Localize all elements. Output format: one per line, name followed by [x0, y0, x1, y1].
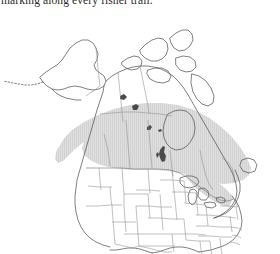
- north-america-range-map: [0, 10, 280, 254]
- map-svg: [0, 10, 280, 254]
- caption-clip: marking along every fisher trail.: [0, 0, 280, 9]
- caption-line: marking along every fisher trail.: [1, 0, 153, 7]
- range-map-page: marking along every fisher trail.: [0, 0, 280, 254]
